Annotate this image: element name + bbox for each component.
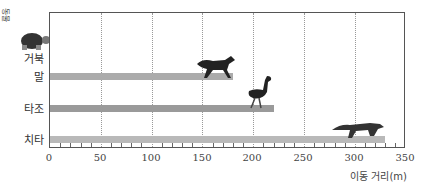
minor-tick [395,143,396,147]
minor-tick [284,143,285,147]
x-tick-0: 0 [46,152,52,163]
minor-tick [213,143,214,147]
minor-tick [223,143,224,147]
minor-tick [385,143,386,147]
y-axis-title: 동물 [1,8,12,22]
minor-tick [141,143,142,147]
minor-tick [243,143,244,147]
gridline-100 [152,13,153,147]
minor-tick [81,143,82,147]
minor-tick [91,143,92,147]
cheetah-icon [330,118,386,140]
x-tick-200: 200 [242,152,261,163]
turtle-icon [16,30,52,52]
x-tick-300: 300 [344,152,363,163]
x-tick-100: 100 [141,152,160,163]
row-label-horse: 말 [4,68,44,84]
minor-tick [111,143,112,147]
minor-tick [233,143,234,147]
gridline-250 [304,13,305,147]
horse-icon [193,54,237,80]
minor-tick [314,143,315,147]
minor-tick [162,143,163,147]
minor-tick [345,143,346,147]
minor-tick [192,143,193,147]
x-tick-150: 150 [192,152,211,163]
x-tick-50: 50 [94,152,107,163]
x-axis-title: 이동 거리(m) [350,168,407,183]
minor-tick [294,143,295,147]
row-label-turtle: 거북 [4,50,44,66]
minor-tick [131,143,132,147]
gridline-150 [202,13,203,147]
row-label-cheetah: 치타 [4,131,44,147]
minor-tick [335,143,336,147]
minor-tick [121,143,122,147]
minor-tick [182,143,183,147]
minor-tick [365,143,366,147]
minor-tick [172,143,173,147]
x-tick-350: 350 [395,152,414,163]
gridline-50 [101,13,102,147]
row-label-ostrich: 타조 [4,100,44,116]
minor-tick [375,143,376,147]
bar-ostrich [50,105,274,112]
minor-tick [70,143,71,147]
minor-tick [324,143,325,147]
minor-tick [263,143,264,147]
x-tick-250: 250 [293,152,312,163]
ostrich-icon [245,74,275,110]
minor-tick [274,143,275,147]
minor-tick [60,143,61,147]
